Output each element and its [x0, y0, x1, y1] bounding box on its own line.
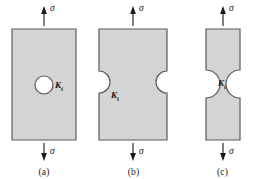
kt-label-b: Kt [111, 90, 119, 102]
panel-a-body-group [12, 29, 76, 140]
kt-label-c: Kt [218, 78, 226, 90]
top-stress-arrow-head [130, 6, 136, 14]
panel-b: σ σ Kt (b) [89, 0, 178, 179]
panel-b-body-group [99, 29, 167, 140]
bottom-stress-arrow-head [41, 153, 47, 161]
plate-with-edge-notches-shape [99, 29, 167, 140]
stress-concentration-figure: σ σ Kt (a) σ σ Kt (b) [0, 0, 267, 179]
top-stress-label: σ [139, 3, 144, 13]
panel-a-drawing [0, 0, 88, 179]
kt-subscript: t [61, 85, 63, 92]
top-stress-label: σ [229, 3, 234, 13]
panel-a: σ σ Kt (a) [0, 0, 88, 179]
kt-subscript: t [224, 83, 226, 90]
panel-a-top-arrow-group [41, 6, 47, 26]
panel-c-top-arrow-group [220, 6, 226, 26]
panel-c-bottom-arrow-group [220, 143, 226, 161]
top-stress-arrow-head [41, 6, 47, 14]
kt-label-a: Kt [55, 80, 63, 92]
kt-subscript: t [117, 95, 119, 102]
caption-c: (c) [178, 167, 267, 177]
bottom-stress-arrow-head [220, 153, 226, 161]
panel-b-top-arrow-group [130, 6, 136, 26]
panel-b-drawing [89, 0, 178, 179]
panel-c: σ σ Kt (c) [178, 0, 267, 179]
caption-b: (b) [89, 167, 178, 177]
panel-b-bottom-arrow-group [130, 143, 136, 161]
bottom-stress-label: σ [50, 146, 55, 156]
bottom-stress-label: σ [229, 146, 234, 156]
top-stress-label: σ [50, 3, 55, 13]
bottom-stress-label: σ [139, 146, 144, 156]
bottom-stress-arrow-head [130, 153, 136, 161]
panel-a-bottom-arrow-group [41, 143, 47, 161]
caption-a: (a) [0, 167, 88, 177]
plate-with-hole-shape [12, 29, 76, 140]
top-stress-arrow-head [220, 6, 226, 14]
